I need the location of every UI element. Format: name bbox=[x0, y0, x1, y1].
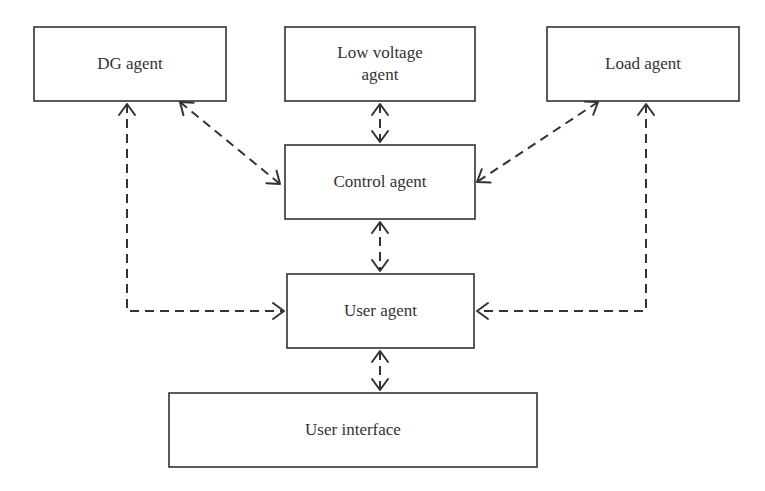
arrowhead-icon bbox=[273, 303, 284, 319]
node-user: User agent bbox=[287, 274, 474, 348]
node-lv: Low voltageagent bbox=[285, 27, 475, 101]
node-control: Control agent bbox=[285, 145, 475, 219]
node-label: agent bbox=[362, 65, 399, 84]
edge-user-ui bbox=[372, 351, 388, 390]
edge-load-control bbox=[477, 101, 598, 182]
node-label: User interface bbox=[305, 420, 401, 439]
edge-line bbox=[477, 102, 598, 182]
edge-line bbox=[127, 104, 284, 311]
edge-dg-control bbox=[180, 102, 280, 184]
node-dg: DG agent bbox=[34, 27, 226, 101]
edge-dg-user bbox=[119, 104, 284, 319]
node-label: DG agent bbox=[97, 54, 163, 73]
edge-line bbox=[477, 104, 646, 311]
arrowhead-icon bbox=[372, 260, 388, 271]
edge-lv-control bbox=[372, 104, 388, 142]
node-label: Control agent bbox=[333, 172, 426, 191]
agent-architecture-diagram: DG agentLow voltageagentLoad agentContro… bbox=[0, 0, 765, 491]
node-label: User agent bbox=[344, 301, 417, 320]
edge-line bbox=[180, 102, 280, 184]
node-ui: User interface bbox=[169, 393, 537, 467]
node-load: Load agent bbox=[547, 27, 739, 101]
node-label: Load agent bbox=[605, 54, 681, 73]
diagram-svg: DG agentLow voltageagentLoad agentContro… bbox=[0, 0, 765, 491]
node-label: Low voltage bbox=[337, 43, 422, 62]
nodes: DG agentLow voltageagentLoad agentContro… bbox=[34, 27, 739, 467]
edge-load-user bbox=[477, 104, 654, 319]
edge-control-user bbox=[372, 222, 388, 271]
